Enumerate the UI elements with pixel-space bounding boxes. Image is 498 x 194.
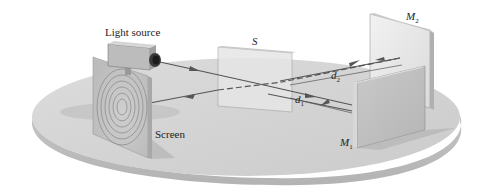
label-beam-splitter: S <box>252 35 258 47</box>
michelson-interferometer-diagram: Light source S M2 d2 d1 M1 Screen <box>0 0 498 194</box>
label-mirror-2: M2 <box>405 10 419 25</box>
beam-splitter-s <box>218 46 296 112</box>
label-screen: Screen <box>155 128 185 140</box>
label-light-source: Light source <box>105 26 160 38</box>
